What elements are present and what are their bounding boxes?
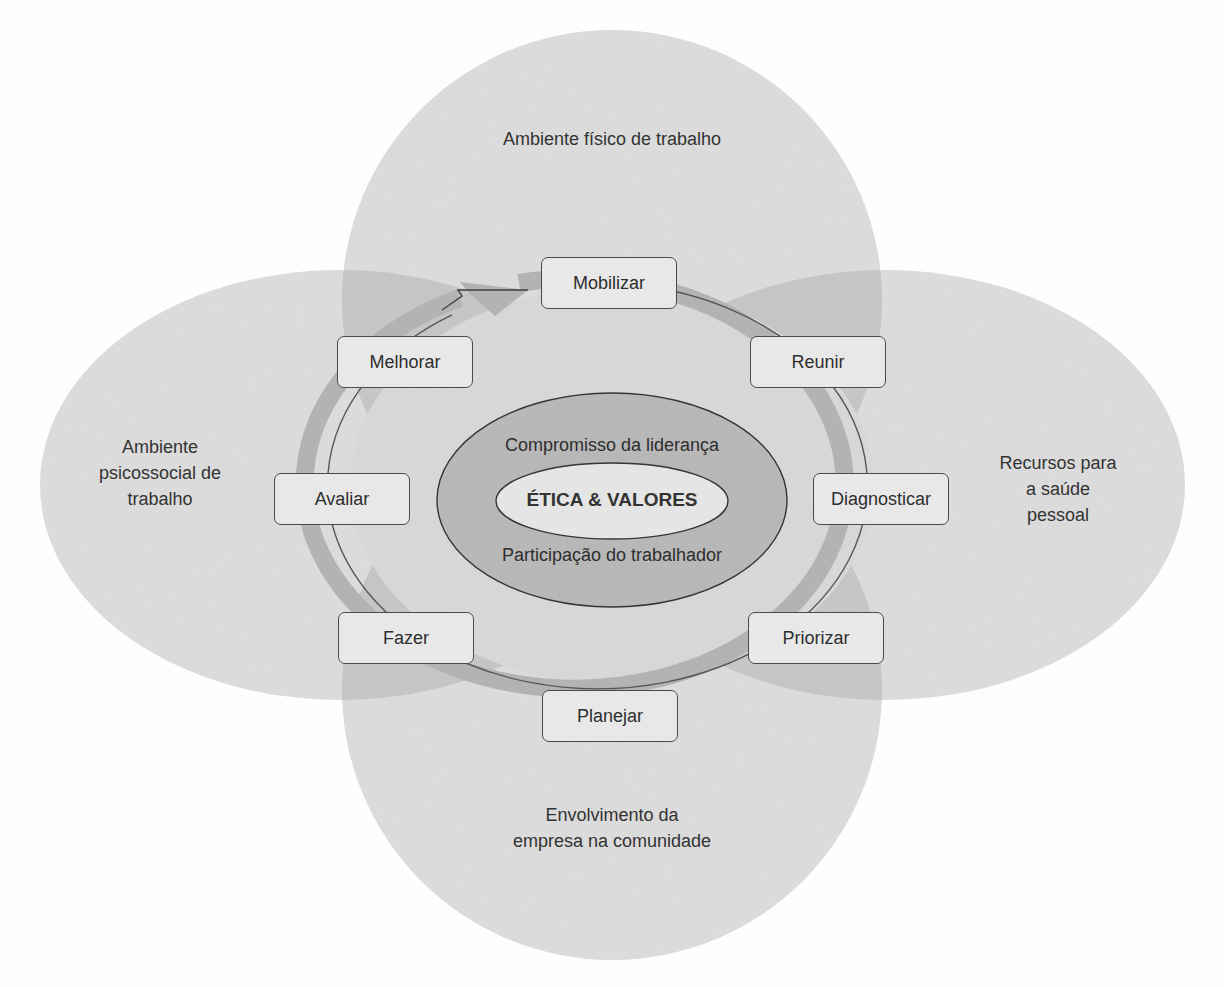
step-diagnosticar: Diagnosticar xyxy=(813,473,949,525)
core-center-label: ÉTICA & VALORES xyxy=(526,489,697,511)
area-label-right: Recursos para a saúde pessoal xyxy=(999,450,1116,528)
core-top-label: Compromisso da liderança xyxy=(505,435,719,456)
step-melhorar: Melhorar xyxy=(337,336,473,388)
core-bottom-label: Participação do trabalhador xyxy=(502,545,722,566)
step-planejar: Planejar xyxy=(542,690,678,742)
step-priorizar: Priorizar xyxy=(748,612,884,664)
step-fazer: Fazer xyxy=(338,612,474,664)
area-label-top: Ambiente físico de trabalho xyxy=(503,126,721,152)
step-avaliar: Avaliar xyxy=(274,473,410,525)
step-mobilizar: Mobilizar xyxy=(541,257,677,309)
area-label-left: Ambiente psicossocial de trabalho xyxy=(99,434,221,512)
area-label-bottom: Envolvimento da empresa na comunidade xyxy=(513,802,711,854)
step-reunir: Reunir xyxy=(750,336,886,388)
